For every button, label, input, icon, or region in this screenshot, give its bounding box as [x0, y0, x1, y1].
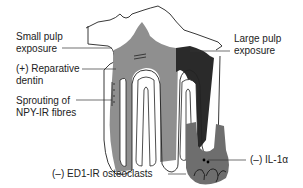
- periapical-lesion: [186, 122, 229, 184]
- label-line: Sprouting of: [16, 95, 76, 107]
- label-line: (–) ED1-IR osteoclasts: [52, 168, 153, 180]
- label-sprouting-npy: Sprouting of NPY-IR fibres: [16, 95, 76, 119]
- label-line: exposure: [234, 45, 281, 57]
- label-large-pulp-exposure: Large pulp exposure: [234, 33, 281, 57]
- label-line: Small pulp: [16, 31, 63, 43]
- label-reparative-dentin: (+) Reparative dentin: [16, 63, 80, 87]
- label-small-pulp-exposure: Small pulp exposure: [16, 31, 63, 55]
- label-line: (–) IL-1α: [250, 154, 288, 166]
- label-line: exposure: [16, 43, 63, 55]
- label-il1-alpha: (–) IL-1α: [250, 154, 288, 166]
- label-line: (+) Reparative: [16, 63, 80, 75]
- label-ed1-osteoclasts: (–) ED1-IR osteoclasts: [52, 168, 153, 180]
- label-line: Large pulp: [234, 33, 281, 45]
- label-line: NPY-IR fibres: [16, 107, 76, 119]
- label-line: dentin: [16, 75, 80, 87]
- root-canal-1: [120, 78, 126, 166]
- il1-dot: [203, 159, 206, 162]
- crown-left: [88, 26, 114, 64]
- il1-dot-2: [207, 161, 210, 164]
- root-canal-2: [136, 77, 156, 166]
